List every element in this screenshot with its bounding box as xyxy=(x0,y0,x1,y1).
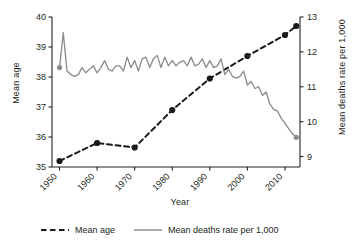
series-marker xyxy=(244,53,250,59)
left-axis-tick-label: 40 xyxy=(36,12,46,22)
chart-container: 3536373839409101112131950196019701980199… xyxy=(0,0,360,245)
right-axis-tick-label: 10 xyxy=(307,117,317,127)
right-axis-tick-label: 11 xyxy=(307,82,316,92)
solid-line-swatch-icon xyxy=(133,225,163,235)
series-start-marker xyxy=(57,65,62,70)
left-axis-tick-label: 36 xyxy=(36,132,46,142)
series-marker xyxy=(94,140,100,146)
x-axis-tick-label: 1980 xyxy=(150,171,171,192)
series-end-marker xyxy=(294,135,299,140)
x-axis-tick-label: 1990 xyxy=(188,171,209,192)
chart-plot-area: 3536373839409101112131950196019701980199… xyxy=(0,0,360,245)
series-marker xyxy=(56,158,62,164)
dashed-line-swatch-icon xyxy=(40,225,70,235)
series-layer xyxy=(56,23,299,164)
chart-legend: Mean age Mean deaths rate per 1,000 xyxy=(40,220,340,240)
left-axis-tick-label: 37 xyxy=(36,102,46,112)
series-marker xyxy=(169,107,175,113)
right-axis-tick-label: 9 xyxy=(307,152,312,162)
series-marker xyxy=(132,144,138,150)
series-marker xyxy=(293,23,299,29)
x-axis-tick-label: 2010 xyxy=(263,171,284,192)
series-marker xyxy=(207,75,213,81)
x-axis-tick-label: 1950 xyxy=(38,171,59,192)
left-axis-tick-label: 39 xyxy=(36,42,46,52)
legend-label: Mean age xyxy=(75,225,115,235)
tick-labels-layer: 3536373839409101112131950196019701980199… xyxy=(36,12,317,192)
right-axis-tick-label: 12 xyxy=(307,47,317,57)
right-axis-title: Mean deaths rate per 1,000 xyxy=(337,11,347,143)
left-axis-tick-label: 35 xyxy=(36,162,46,172)
legend-item-mean-age: Mean age xyxy=(40,225,115,235)
x-axis-tick-label: 2000 xyxy=(226,171,247,192)
x-axis-tick-label: 1970 xyxy=(113,171,134,192)
right-axis-tick-label: 13 xyxy=(307,12,317,22)
x-axis-title: Year xyxy=(130,197,230,207)
left-axis-tick-label: 38 xyxy=(36,72,46,82)
x-axis-tick-label: 1960 xyxy=(75,171,96,192)
left-axis-title: Mean age xyxy=(11,43,21,123)
legend-item-mean-deaths-rate: Mean deaths rate per 1,000 xyxy=(133,225,279,235)
legend-label: Mean deaths rate per 1,000 xyxy=(168,225,279,235)
series-marker xyxy=(282,32,288,38)
